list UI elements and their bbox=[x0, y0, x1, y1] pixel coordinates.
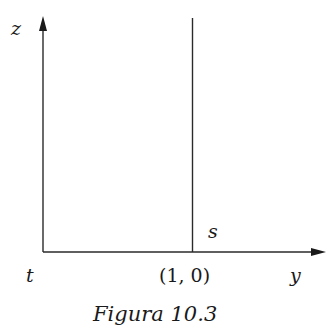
z-axis-label: z bbox=[11, 19, 21, 38]
point-label: (1, 0) bbox=[159, 266, 210, 285]
origin-label: t bbox=[26, 266, 34, 285]
z-axis-arrowhead-icon bbox=[39, 16, 47, 31]
line-s-label: s bbox=[208, 222, 218, 241]
y-axis-label: y bbox=[290, 266, 301, 285]
figure-10-3: z s t (1, 0) y Figura 10.3 bbox=[0, 0, 336, 334]
y-axis-arrowhead-icon bbox=[311, 248, 326, 256]
figure-caption: Figura 10.3 bbox=[93, 304, 217, 325]
